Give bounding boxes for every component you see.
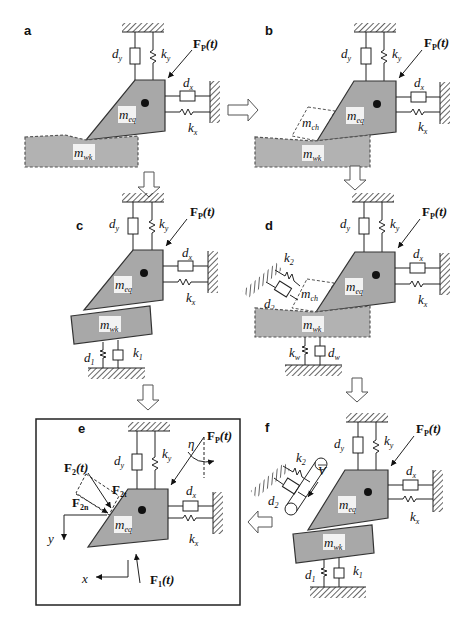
svg-text:ky: ky (392, 46, 402, 63)
svg-text:dw: dw (328, 345, 341, 362)
svg-text:FP(t): FP(t) (416, 421, 441, 438)
svg-text:k2: k2 (284, 250, 294, 267)
svg-text:ky: ky (384, 433, 394, 450)
svg-text:F2(t): F2(t) (64, 460, 88, 477)
svg-text:dx: dx (414, 75, 425, 92)
panel-label-f: f (265, 420, 270, 435)
arrow-b-to-d (344, 166, 366, 190)
figure: a dy ky meq FP(t) dx kx mwk b dy ky mch (0, 0, 472, 623)
svg-text:FP(t): FP(t) (422, 204, 447, 221)
svg-text:kx: kx (410, 509, 420, 526)
svg-text:kx: kx (418, 292, 428, 309)
svg-text:y: y (46, 531, 54, 546)
arrow-a-to-b (228, 99, 258, 121)
svg-text:dy: dy (112, 46, 123, 63)
force-fp-arrow (168, 50, 192, 78)
svg-text:FP(t): FP(t) (207, 428, 232, 445)
svg-text:dx: dx (413, 246, 424, 263)
arrow-c-to-e (137, 385, 159, 410)
svg-text:x: x (81, 571, 88, 586)
panel-label-c: c (76, 218, 83, 233)
panel-label-a: a (24, 23, 32, 38)
panel-label-d: d (265, 218, 273, 233)
panel-a: a dy ky meq FP(t) dx kx mwk (24, 23, 220, 167)
svg-text:F1(t): F1(t) (150, 572, 174, 589)
svg-text:k2: k2 (296, 450, 306, 467)
mechanics-diagram: a dy ky meq FP(t) dx kx mwk b dy ky mch (0, 0, 472, 623)
svg-text:d2: d2 (268, 493, 279, 510)
spring-ky (150, 32, 156, 80)
svg-text:FP(t): FP(t) (193, 36, 218, 53)
svg-text:dy: dy (340, 216, 351, 233)
svg-text:dy: dy (341, 46, 352, 63)
arrow-f-to-e (248, 511, 272, 533)
svg-text:η: η (188, 436, 194, 451)
svg-text:dx: dx (182, 245, 193, 262)
panel-b: b dy ky mch meq FP(t) dx kx mwk (255, 23, 450, 167)
panel-e: e dy ky meq η FP(t) dx kx F2(t) F2t F2n … (36, 419, 240, 605)
svg-text:dy: dy (334, 436, 345, 453)
panel-d: d dy ky mch meq FP(t) dx kx k2 d2 mwk kw (243, 193, 450, 376)
svg-text:FP(t): FP(t) (424, 35, 449, 52)
svg-text:FP(t): FP(t) (190, 204, 215, 221)
svg-text:kw: kw (289, 345, 301, 362)
ground-top (122, 23, 164, 32)
damper-dy (130, 48, 140, 64)
svg-text:dy: dy (109, 216, 120, 233)
svg-text:d1: d1 (305, 567, 316, 584)
svg-text:k1: k1 (133, 345, 143, 362)
svg-text:kx: kx (188, 120, 198, 137)
svg-text:ky: ky (159, 216, 169, 233)
svg-text:kx: kx (186, 290, 196, 307)
panel-label-e: e (78, 421, 85, 436)
panel-c: c dy ky meq FP(t) dx kx mwk d1 k1 (71, 193, 218, 379)
svg-text:kx: kx (418, 119, 428, 136)
svg-text:ky: ky (161, 46, 171, 63)
panel-f: f dy ky meq FP(t) dx kx k2 d2 V (251, 413, 443, 598)
svg-text:ky: ky (390, 216, 400, 233)
svg-text:d1: d1 (84, 350, 95, 367)
panel-label-b: b (265, 23, 273, 38)
arrow-d-to-f (346, 378, 368, 402)
svg-text:dx: dx (406, 463, 417, 480)
svg-text:k1: k1 (353, 563, 363, 580)
svg-text:dx: dx (183, 75, 194, 92)
